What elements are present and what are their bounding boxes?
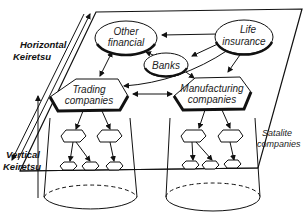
manufacturing-label-1: Manufacturing <box>180 83 244 94</box>
satellite-label-1: Satalite <box>262 128 292 138</box>
vertical-keiretsu-label-2: Keiretsu <box>3 161 41 172</box>
keiretsu-diagram: Other financial Life insurance Banks Tra… <box>0 0 308 221</box>
other-financial-label-1: Other <box>113 26 139 37</box>
manufacturing-label-2: companies <box>188 94 236 105</box>
satellite-label-2: companies <box>257 139 301 149</box>
node-banks: Banks <box>144 53 188 77</box>
node-other-financial: Other financial <box>95 21 157 55</box>
banks-label: Banks <box>152 60 180 71</box>
life-insurance-label-2: insurance <box>222 36 266 47</box>
life-insurance-label-1: Life <box>240 24 257 35</box>
node-life-insurance: Life insurance <box>215 20 273 55</box>
horizontal-keiretsu-label-2: Keiretsu <box>13 51 51 62</box>
vertical-keiretsu-label-1: Vertical <box>6 149 40 160</box>
trading-label-1: Trading <box>72 84 106 95</box>
horizontal-keiretsu-label-1: Horizontal <box>20 39 67 50</box>
trading-label-2: companies <box>65 95 113 106</box>
other-financial-label-2: financial <box>108 37 145 48</box>
